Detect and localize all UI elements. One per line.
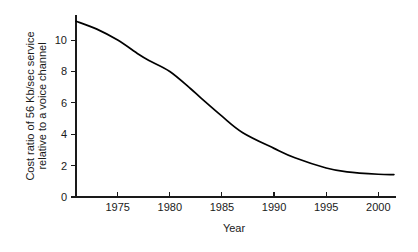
x-tick-label: 1985 [210,201,234,213]
y-tick-label: 4 [61,128,67,140]
x-tick-group [118,192,379,197]
y-tick-group [71,40,76,197]
line-chart: 0246810 197519801985199019952000 Year Co… [0,0,418,252]
y-axis-title-line-1: Cost ratio of 56 Kb/sec service [24,31,36,180]
y-tick-label: 8 [61,65,67,77]
y-axis-title-line-2: relative to a voice channel [36,42,48,169]
data-series-line [76,21,394,174]
y-tick-label: 0 [61,191,67,203]
x-tick-label: 1990 [262,201,286,213]
y-tick-label: 6 [61,97,67,109]
x-tick-label: 1975 [105,201,129,213]
x-axis-title: Year [223,222,246,234]
y-tick-label: 10 [55,34,67,46]
chart-figure: 0246810 197519801985199019952000 Year Co… [0,0,418,252]
x-tick-label: 1980 [158,201,182,213]
x-tick-label-group: 197519801985199019952000 [105,201,390,213]
x-tick-label: 2000 [366,201,390,213]
y-tick-label-group: 0246810 [55,34,67,203]
y-tick-label: 2 [61,160,67,172]
x-tick-label: 1995 [314,201,338,213]
